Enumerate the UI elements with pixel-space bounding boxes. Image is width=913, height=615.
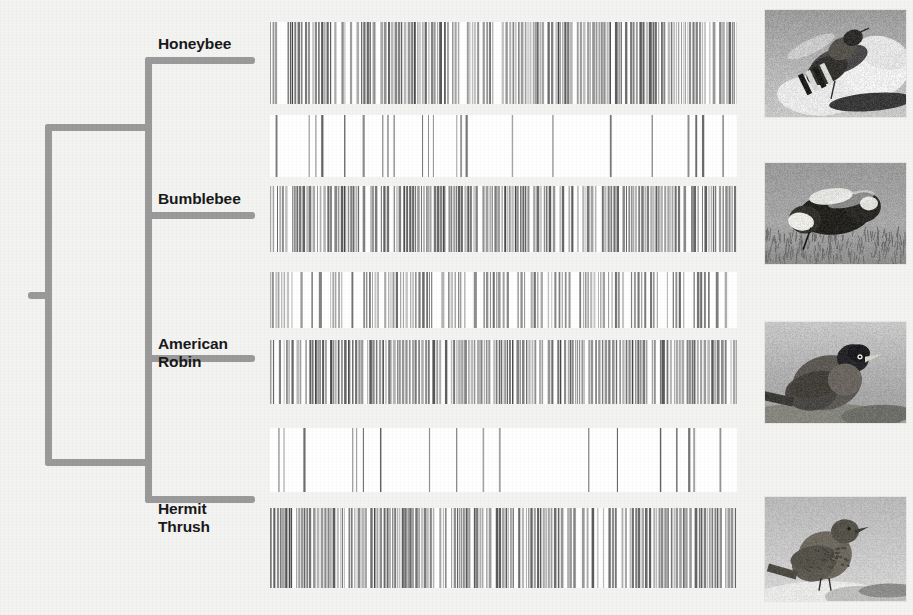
bumblebee-genome-track-b-canvas	[270, 272, 737, 328]
taxon-label-american-robin: American Robin	[158, 335, 228, 370]
photo-honeybee-canvas	[765, 10, 906, 117]
honeybee-genome-track-b	[270, 115, 737, 177]
thrush-genome-track-canvas	[270, 508, 737, 588]
thrush-genome-track	[270, 508, 737, 588]
honeybee-genome-track-a	[270, 22, 737, 104]
robin-genome-track-b	[270, 428, 737, 492]
photo-robin-canvas	[765, 322, 906, 423]
photo-bumblebee-canvas	[765, 163, 906, 264]
photo-robin	[765, 322, 906, 423]
tree-branch-honeybee-branch	[145, 57, 255, 64]
honeybee-genome-track-a-canvas	[270, 22, 737, 104]
tree-branch-bumblebee-branch	[145, 212, 255, 219]
robin-genome-track	[270, 340, 737, 404]
tree-branch-upper-connector	[45, 124, 149, 131]
photo-thrush-canvas	[765, 497, 906, 601]
photo-honeybee	[765, 10, 906, 117]
tree-branch-bird-spine	[145, 355, 152, 503]
taxon-label-hermit-thrush: Hermit Thrush	[158, 500, 210, 535]
bumblebee-genome-track-b	[270, 272, 737, 328]
photo-thrush	[765, 497, 906, 601]
bumblebee-genome-track	[270, 186, 737, 252]
photo-bumblebee	[765, 163, 906, 264]
taxon-label-honeybee: Honeybee	[158, 35, 231, 53]
honeybee-genome-track-b-canvas	[270, 115, 737, 177]
phylogenetic-tree	[0, 0, 265, 615]
robin-genome-track-b-canvas	[270, 428, 737, 492]
taxon-label-bumblebee: Bumblebee	[158, 190, 241, 208]
cladogram-figure: HoneybeeBumblebeeAmerican RobinHermit Th…	[0, 0, 913, 615]
tree-branch-spine-outer	[45, 124, 52, 466]
robin-genome-track-canvas	[270, 340, 737, 404]
tree-branch-lower-connector	[45, 459, 149, 466]
bumblebee-genome-track-canvas	[270, 186, 737, 252]
